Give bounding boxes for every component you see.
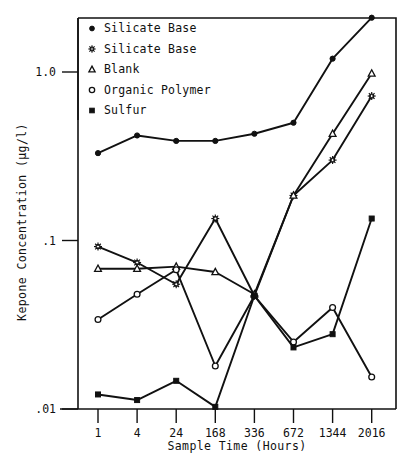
legend-label: Blank bbox=[104, 62, 140, 76]
data-point bbox=[95, 265, 102, 271]
series-4-filled-square bbox=[96, 216, 375, 409]
data-point bbox=[134, 265, 141, 271]
legend-marker-filled-square bbox=[90, 108, 95, 113]
data-point bbox=[211, 215, 219, 223]
x-tick-label: 672 bbox=[283, 426, 304, 440]
x-tick-label: 4 bbox=[134, 426, 141, 440]
data-point bbox=[369, 374, 375, 380]
legend-label: Silicate Base bbox=[104, 21, 197, 35]
data-point bbox=[172, 280, 180, 288]
chart-legend: Silicate BaseSilicate BaseBlankOrganic P… bbox=[78, 18, 211, 120]
x-tick-label: 1 bbox=[95, 426, 102, 440]
data-point bbox=[95, 317, 101, 323]
data-point bbox=[135, 398, 140, 403]
data-point bbox=[330, 332, 335, 337]
data-point bbox=[96, 392, 101, 397]
data-point bbox=[291, 120, 296, 125]
data-point bbox=[252, 293, 257, 298]
data-point bbox=[368, 70, 375, 76]
series-line bbox=[98, 96, 372, 296]
legend-label: Silicate Base bbox=[104, 42, 197, 56]
legend-marker-open-triangle bbox=[89, 66, 95, 72]
data-point bbox=[213, 138, 218, 143]
chart-container: 1.0.1.01 142416833667213442016 Silicate … bbox=[0, 0, 419, 475]
x-tick-label: 1344 bbox=[319, 426, 347, 440]
data-point bbox=[213, 404, 218, 409]
data-point bbox=[135, 133, 140, 138]
y-tick-label: 1.0 bbox=[35, 65, 56, 79]
legend-marker-open-circle bbox=[89, 87, 94, 92]
y-axis-tick-labels: 1.0.1.01 bbox=[35, 65, 56, 416]
x-tick-label: 2016 bbox=[358, 426, 386, 440]
series-line bbox=[98, 219, 372, 407]
data-point bbox=[369, 15, 374, 20]
legend-marker-filled-circle bbox=[90, 26, 95, 31]
data-point bbox=[369, 216, 374, 221]
data-point bbox=[95, 151, 100, 156]
data-point bbox=[134, 291, 140, 297]
y-tick-label: .1 bbox=[42, 234, 56, 248]
x-axis-title: Sample Time (Hours) bbox=[167, 439, 306, 453]
x-axis-tick-labels: 142416833667213442016 bbox=[95, 426, 386, 440]
data-point bbox=[174, 378, 179, 383]
y-axis-title: Kepone Concentration (µg/l) bbox=[15, 123, 29, 321]
data-point bbox=[212, 363, 218, 369]
data-point bbox=[212, 268, 219, 274]
data-point bbox=[330, 56, 335, 61]
data-point bbox=[330, 305, 336, 311]
x-tick-label: 168 bbox=[205, 426, 226, 440]
legend-label: Sulfur bbox=[104, 103, 147, 117]
data-point bbox=[291, 345, 296, 350]
legend-label: Organic Polymer bbox=[104, 83, 211, 97]
y-tick-label: .01 bbox=[35, 402, 56, 416]
data-point bbox=[94, 243, 102, 251]
x-axis-ticks bbox=[98, 409, 372, 423]
axes bbox=[60, 18, 396, 409]
data-point bbox=[173, 267, 179, 273]
plot-frame bbox=[78, 18, 396, 409]
data-point bbox=[174, 138, 179, 143]
data-point bbox=[368, 92, 376, 100]
data-point bbox=[252, 131, 257, 136]
kepone-concentration-line-chart: 1.0.1.01 142416833667213442016 Silicate … bbox=[0, 0, 419, 475]
data-point bbox=[329, 156, 337, 164]
legend-marker-star bbox=[88, 45, 95, 52]
y-axis-ticks bbox=[62, 72, 78, 409]
x-tick-label: 24 bbox=[169, 426, 183, 440]
series-line bbox=[98, 270, 372, 377]
x-tick-label: 336 bbox=[244, 426, 265, 440]
